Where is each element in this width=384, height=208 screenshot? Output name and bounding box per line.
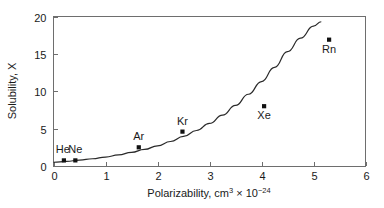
y-tick-label: 0: [40, 161, 46, 173]
x-tick-label: 5: [311, 170, 317, 182]
y-tick-label: 20: [34, 12, 46, 24]
x-axis-title-times: × 10: [236, 187, 258, 199]
data-point-marker: [327, 38, 331, 42]
x-axis-title-sup-cm3: 3: [229, 186, 233, 195]
data-point-label-ne: Ne: [68, 143, 82, 155]
x-tick-label: 4: [259, 170, 265, 182]
data-point-marker: [262, 104, 266, 108]
data-point-marker: [137, 145, 141, 149]
data-point-label-ar: Ar: [133, 130, 144, 142]
data-point-marker: [73, 158, 77, 162]
chart-background: [0, 0, 384, 208]
y-tick-label: 10: [34, 86, 46, 98]
x-tick-label: 2: [155, 170, 161, 182]
x-tick-label: 3: [207, 170, 213, 182]
data-point-label-rn: Rn: [322, 43, 336, 55]
x-axis-title-text: Polarizability, cm3× 10−24: [147, 186, 270, 199]
scatter-chart-figure: 05101520 0123456 HeNeArKrXeRn Solubility…: [0, 0, 384, 208]
x-axis-title-sup-exp: −24: [258, 186, 271, 195]
x-tick-label: 0: [51, 170, 57, 182]
y-axis-title: Solubility, X: [6, 62, 18, 119]
y-axis-title-text: Solubility, X: [6, 62, 18, 119]
data-point-label-xe: Xe: [257, 109, 270, 121]
data-point-marker: [62, 158, 66, 162]
y-tick-label: 15: [34, 49, 46, 61]
x-tick-label: 1: [103, 170, 109, 182]
x-axis-title: Polarizability, cm3× 10−24: [147, 186, 270, 199]
x-tick-label: 6: [363, 170, 369, 182]
chart-canvas: 05101520 0123456 HeNeArKrXeRn Solubility…: [0, 0, 384, 208]
data-point-marker: [180, 130, 184, 134]
data-point-label-kr: Kr: [177, 115, 188, 127]
x-axis-title-base: Polarizability, cm: [147, 187, 229, 199]
y-tick-label: 5: [40, 124, 46, 136]
